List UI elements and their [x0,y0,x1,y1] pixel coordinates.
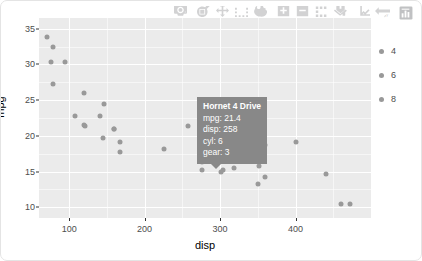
x-tick-mark [145,218,146,221]
data-point[interactable] [51,81,56,86]
gridline-horizontal [39,172,371,173]
data-point[interactable] [101,136,106,141]
y-tick-label: 25 [15,95,35,105]
lasso-select-icon[interactable] [251,3,270,22]
data-point[interactable] [118,149,123,154]
data-point[interactable] [45,34,50,39]
data-point[interactable] [63,59,68,64]
spike-lines-icon[interactable] [354,3,373,22]
y-tick-label: 35 [15,24,35,34]
x-tick-label: 200 [137,224,152,234]
zoom-in-icon[interactable] [274,3,293,22]
box-select-icon[interactable] [232,3,251,22]
legend-label: 8 [391,94,396,104]
x-tick-label: 400 [288,224,303,234]
data-point[interactable] [118,139,123,144]
data-point[interactable] [83,123,88,128]
tooltip-cyl: cyl: 6 [203,136,261,148]
gridline-horizontal-minor [39,82,371,83]
legend-swatch-icon [379,73,384,78]
y-tick-label: 30 [15,59,35,69]
gridline-horizontal [39,207,371,208]
data-point[interactable] [186,123,191,128]
plotly-modebar[interactable]: y [169,3,417,22]
data-point[interactable] [82,91,87,96]
tooltip-mpg: mpg: 21.4 [203,113,261,125]
reset-axes-icon[interactable] [331,3,350,22]
svg-text:y: y [386,13,388,17]
plotly-logo-icon[interactable] [396,3,415,22]
data-point[interactable] [256,163,261,168]
data-point[interactable] [323,171,328,176]
legend-label: 6 [391,70,396,80]
data-point[interactable] [112,126,117,131]
legend[interactable]: 468 [379,39,396,111]
data-point[interactable] [347,202,352,207]
y-tick-label: 10 [15,202,35,212]
pan-move-icon[interactable] [213,3,232,22]
modebar-group-download [169,3,192,22]
gridline-horizontal [39,29,371,30]
x-tick-mark [69,218,70,221]
hover-tooltip: Hornet 4 Drive mpg: 21.4 disp: 258 cyl: … [197,97,267,164]
hover-compare-icon[interactable]: y [373,3,392,22]
legend-swatch-icon [379,97,384,102]
data-point[interactable] [231,166,236,171]
autoscale-icon[interactable] [312,3,331,22]
legend-item-8[interactable]: 8 [379,87,396,111]
x-tick-mark [220,218,221,221]
zoom-out-icon[interactable] [293,3,312,22]
x-tick-label: 300 [213,224,228,234]
legend-item-4[interactable]: 4 [379,39,396,63]
data-point[interactable] [51,45,56,50]
x-tick-mark [296,218,297,221]
plotly-figure-container: y 100200300400353025201510 disp mpg 468 … [0,0,422,261]
zoom-magnifier-icon[interactable] [194,3,213,22]
data-point[interactable] [161,147,166,152]
data-point[interactable] [97,113,102,118]
tooltip-title: Hornet 4 Drive [203,101,261,113]
tooltip-disp: disp: 258 [203,124,261,136]
modebar-group-zoom [272,3,352,22]
legend-label: 4 [391,46,396,56]
data-point[interactable] [338,202,343,207]
legend-item-6[interactable]: 6 [379,63,396,87]
data-point[interactable] [48,59,53,64]
data-point[interactable] [102,102,107,107]
modebar-group-hover: y [352,3,394,22]
data-point[interactable] [199,168,204,173]
x-axis-title: disp [39,239,371,251]
gridline-horizontal-minor [39,189,371,190]
data-point[interactable] [255,181,260,186]
y-tick-label: 20 [15,131,35,141]
modebar-group-logo [394,3,417,22]
legend-swatch-icon [379,49,384,54]
tooltip-gear: gear: 3 [203,147,261,159]
gridline-horizontal [39,64,371,65]
x-tick-label: 100 [62,224,77,234]
data-point[interactable] [73,113,78,118]
y-tick-label: 15 [15,167,35,177]
y-axis-title: mpg [0,96,6,117]
modebar-group-drag [192,3,272,22]
gridline-horizontal-minor [39,47,371,48]
tooltip-arrow [211,164,221,169]
camera-icon[interactable] [171,3,190,22]
data-point[interactable] [218,169,223,174]
data-point[interactable] [263,174,268,179]
data-point[interactable] [293,139,298,144]
